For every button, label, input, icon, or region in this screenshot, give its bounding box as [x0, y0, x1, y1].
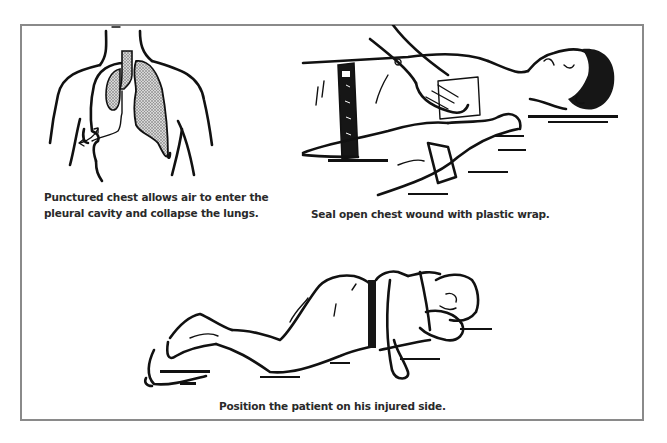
seal-wound-caption: Seal open chest wound with plastic wrap.: [311, 206, 550, 222]
seal-wound-illustration: [298, 25, 628, 205]
lung-diagram-illustration: [40, 25, 225, 185]
lung-caption-line-1: Punctured chest allows air to enter the: [44, 189, 268, 205]
lung-diagram-caption: Punctured chest allows air to enter the …: [44, 189, 268, 221]
lung-caption-line-2: pleural cavity and collapse the lungs.: [44, 205, 268, 221]
recovery-position-caption: Position the patient on his injured side…: [219, 398, 446, 414]
recovery-position-illustration: [140, 250, 510, 395]
